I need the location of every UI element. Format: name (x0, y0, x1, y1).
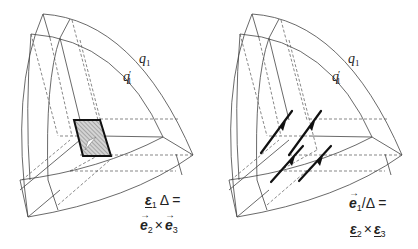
surface-label-q1-left: q1 (139, 52, 151, 68)
equation-left-line1: ε1 Δ = (145, 193, 181, 210)
hatched-area-element (74, 120, 111, 156)
equation-right-line1: →e1/Δ = (349, 196, 386, 213)
surface-label-q1-prime-right: q′1 (332, 70, 341, 86)
surface-label-q1-right: q1 (348, 52, 360, 68)
surface-label-q1-prime-left: q′1 (123, 70, 132, 86)
left-octant-diagram (20, 14, 193, 217)
equation-left-line2: →e2×→e3 (140, 218, 178, 235)
right-octant-diagram (229, 14, 402, 217)
equation-right-line2: ε2×ε3 (350, 222, 386, 239)
